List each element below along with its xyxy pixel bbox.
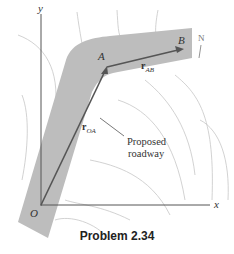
- annotation-line2: roadway: [127, 148, 166, 160]
- vector-r-ab-label: rAB: [141, 60, 154, 74]
- origin-label: O: [30, 207, 38, 219]
- roadway-annotation: Proposed roadway: [127, 136, 166, 160]
- annotation-line1: Proposed: [127, 136, 166, 148]
- y-axis-label: y: [38, 2, 43, 14]
- leader-line: [100, 118, 124, 136]
- roadway-band: [18, 28, 192, 238]
- vector-r-oa-label: rOA: [82, 121, 96, 135]
- figure: y x O A B rAB rOA Proposed roadway N Pro…: [0, 0, 234, 254]
- x-axis-label: x: [214, 198, 219, 210]
- point-b-label: B: [178, 34, 185, 46]
- point-a-label: A: [98, 50, 105, 62]
- north-label: N: [198, 32, 205, 44]
- figure-caption: Problem 2.34: [0, 229, 234, 243]
- north-arrow: [199, 45, 201, 58]
